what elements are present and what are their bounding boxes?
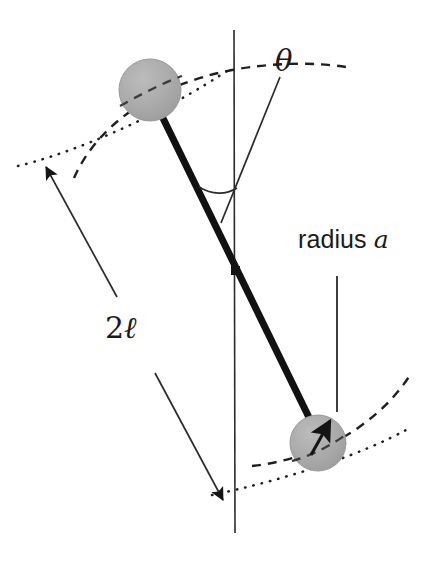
rotation-axis: [234, 30, 235, 533]
theta-angle-arc: [199, 187, 237, 193]
length-label-symbol: ℓ: [124, 310, 137, 345]
rod-midpoint-marker: [231, 266, 240, 275]
length-leader-lower: [155, 373, 223, 500]
radius-label: radius a: [298, 227, 389, 252]
length-label: 2ℓ: [105, 313, 137, 343]
length-label-prefix: 2: [105, 310, 124, 345]
radius-label-prefix: radius: [298, 225, 374, 253]
theta-reference-ray: [221, 77, 280, 223]
theta-label: θ: [275, 47, 292, 76]
length-leader-upper: [46, 167, 117, 297]
diagram-canvas: [0, 0, 427, 563]
physics-diagram-figure: θ radius a 2ℓ: [0, 0, 427, 563]
radius-label-symbol: a: [374, 225, 389, 254]
